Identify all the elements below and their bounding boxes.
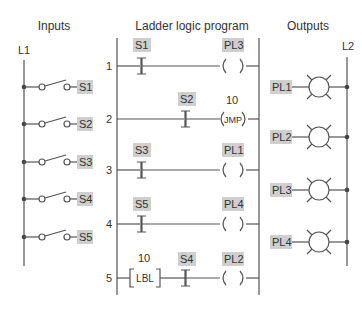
program-title: Ladder logic program bbox=[135, 19, 248, 33]
svg-text:S3: S3 bbox=[79, 156, 92, 168]
svg-text:PL1: PL1 bbox=[272, 81, 292, 93]
rung-1: 1 S1 PL3 bbox=[106, 38, 259, 74]
svg-text:S5: S5 bbox=[79, 231, 92, 243]
rung-number: 2 bbox=[106, 113, 112, 125]
output-pl3: PL3 bbox=[270, 178, 349, 202]
input-s2: S2 bbox=[22, 117, 93, 131]
rung-2: 2 S2 10 JMP bbox=[106, 92, 259, 127]
svg-text:PL4: PL4 bbox=[224, 198, 244, 210]
rung-3: 3 S3 PL1 bbox=[106, 143, 259, 178]
inputs-title: Inputs bbox=[38, 19, 71, 33]
svg-text:S4: S4 bbox=[79, 193, 92, 205]
svg-text:S1: S1 bbox=[79, 81, 92, 93]
svg-text:10: 10 bbox=[226, 94, 238, 106]
input-s4: S4 bbox=[22, 192, 93, 206]
svg-text:PL2: PL2 bbox=[224, 253, 244, 265]
rail-l1-label: L1 bbox=[18, 44, 30, 56]
output-pl1: PL1 bbox=[270, 75, 349, 99]
input-s1: S1 bbox=[22, 80, 93, 94]
output-pl4: PL4 bbox=[270, 230, 349, 254]
svg-text:JMP: JMP bbox=[224, 115, 242, 125]
svg-text:S3: S3 bbox=[135, 144, 148, 156]
output-pl2: PL2 bbox=[270, 125, 349, 149]
svg-text:S5: S5 bbox=[135, 198, 148, 210]
rung-5: 5 10 LBL S4 PL2 bbox=[106, 252, 259, 287]
svg-text:S2: S2 bbox=[79, 118, 92, 130]
svg-text:PL3: PL3 bbox=[224, 39, 244, 51]
svg-text:S1: S1 bbox=[135, 39, 148, 51]
rung-number: 5 bbox=[106, 272, 112, 284]
svg-text:S4: S4 bbox=[180, 253, 193, 265]
rail-l2-label: L2 bbox=[342, 40, 354, 52]
rung-number: 4 bbox=[106, 218, 112, 230]
svg-text:S2: S2 bbox=[180, 93, 193, 105]
svg-text:PL1: PL1 bbox=[224, 144, 244, 156]
svg-text:PL3: PL3 bbox=[272, 184, 292, 196]
rung-number: 3 bbox=[106, 164, 112, 176]
svg-text:10: 10 bbox=[138, 252, 150, 264]
svg-text:PL2: PL2 bbox=[272, 131, 292, 143]
svg-text:LBL: LBL bbox=[136, 273, 154, 284]
rung-number: 1 bbox=[106, 60, 112, 72]
outputs-title: Outputs bbox=[287, 19, 329, 33]
ladder-diagram: Inputs Ladder logic program Outputs L1 S… bbox=[0, 0, 362, 310]
rung-4: 4 S5 PL4 bbox=[106, 197, 259, 232]
input-s5: S5 bbox=[22, 230, 93, 244]
svg-text:PL4: PL4 bbox=[272, 236, 292, 248]
input-s3: S3 bbox=[22, 155, 93, 169]
